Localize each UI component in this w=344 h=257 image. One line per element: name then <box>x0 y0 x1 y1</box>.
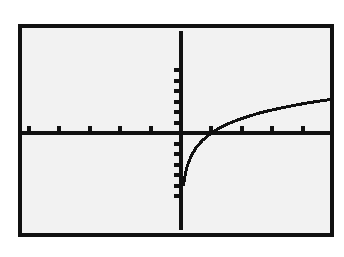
plot-area[interactable] <box>22 28 330 233</box>
calculator-screen-frame <box>18 24 334 237</box>
plot-background <box>22 28 330 233</box>
calculator-screenshot: Graphing Calculator Screen <box>0 0 344 257</box>
graph-canvas[interactable] <box>22 28 330 233</box>
